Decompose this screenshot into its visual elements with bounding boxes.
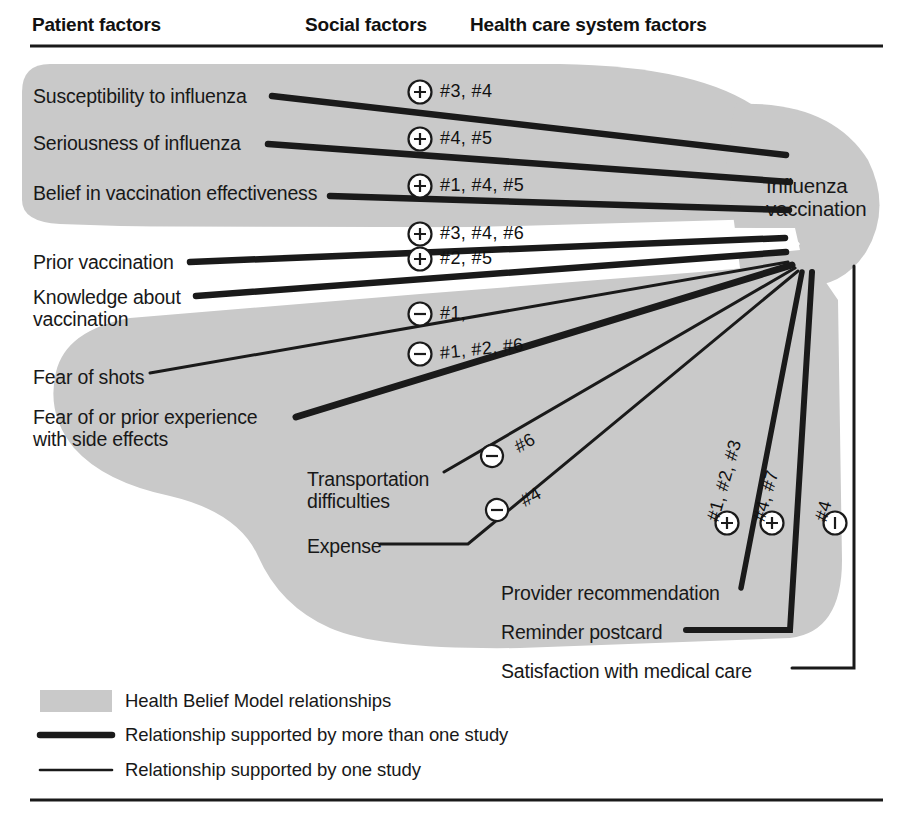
target-line-2: vaccination — [766, 197, 866, 220]
node-knowledge-line-2: vaccination — [33, 309, 243, 331]
column-header-patient-factors: Patient factors — [32, 14, 161, 36]
column-header-social-factors: Social factors — [305, 14, 427, 36]
node-fear-side-effects-line-2: with side effects — [33, 429, 323, 451]
node-transportation-line-1: Transportation — [307, 469, 477, 491]
edge-label-fear-shots: #1, — [440, 303, 466, 324]
figure-root: Patient factors Social factors Health ca… — [0, 0, 909, 825]
edge-label-belief: #1, #4, #5 — [440, 175, 524, 196]
node-satisfaction-with-medical-care: Satisfaction with medical care — [501, 661, 752, 683]
node-fear-of-or-prior-experience-with-side-effects: Fear of or prior experience with side ef… — [33, 407, 323, 451]
legend-label-multi-study: Relationship supported by more than one … — [125, 724, 508, 746]
legend-swatch-shade — [40, 690, 112, 712]
node-transportation-difficulties: Transportation difficulties — [307, 469, 477, 513]
edge-label-knowledge: #2, #5 — [440, 248, 492, 269]
legend-label-single-study: Relationship supported by one study — [125, 759, 421, 781]
column-header-health-care-system-factors: Health care system factors — [470, 14, 707, 36]
node-reminder-postcard: Reminder postcard — [501, 622, 662, 644]
edge-label-seriousness: #4, #5 — [440, 128, 492, 149]
node-fear-of-shots: Fear of shots — [33, 367, 144, 389]
node-provider-recommendation: Provider recommendation — [501, 583, 720, 605]
node-susceptibility-to-influenza: Susceptibility to influenza — [33, 86, 247, 108]
edge-label-prior-vaccination: #3, #4, #6 — [440, 223, 524, 244]
node-influenza-vaccination: Influenza vaccination — [766, 174, 866, 221]
edge-label-susceptibility: #3, #4 — [440, 81, 492, 102]
node-knowledge-line-1: Knowledge about — [33, 287, 243, 309]
node-belief-in-vaccination-effectiveness: Belief in vaccination effectiveness — [33, 183, 317, 205]
node-prior-vaccination: Prior vaccination — [33, 252, 174, 274]
node-seriousness-of-influenza: Seriousness of influenza — [33, 133, 241, 155]
node-transportation-line-2: difficulties — [307, 491, 477, 513]
node-knowledge-about-vaccination: Knowledge about vaccination — [33, 287, 243, 331]
legend-label-hbm-shade: Health Belief Model relationships — [125, 690, 391, 712]
target-line-1: Influenza — [766, 174, 866, 197]
node-fear-side-effects-line-1: Fear of or prior experience — [33, 407, 323, 429]
node-expense: Expense — [307, 536, 382, 558]
